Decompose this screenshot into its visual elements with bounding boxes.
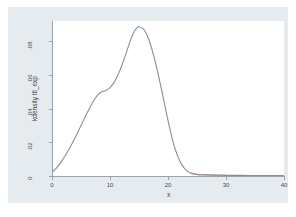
stata-graph-region: kdensity ttl_exp 0.02.04.06.08 010203040… [8,7,288,203]
y-tick-label: .08 [27,41,34,65]
x-tick-mark [110,177,111,180]
y-tick-mark [49,109,52,110]
x-tick-label: 30 [216,182,236,189]
y-tick-label: 0 [27,176,34,200]
plot-area [52,21,284,176]
x-tick-label: 0 [42,182,62,189]
y-tick-label: .02 [27,142,34,166]
y-tick-mark [49,75,52,76]
x-tick-mark [168,177,169,180]
x-tick-label: 20 [158,182,178,189]
y-axis-line [52,21,53,177]
y-tick-mark [49,142,52,143]
x-tick-label: 40 [274,182,294,189]
chart-screenshot: kdensity ttl_exp 0.02.04.06.08 010203040… [0,0,296,217]
y-tick-label: .06 [27,75,34,99]
x-tick-mark [52,177,53,180]
y-tick-label: .04 [27,109,34,133]
y-tick-mark [49,41,52,42]
density-curve-svg [52,21,284,176]
x-axis-title: x [52,191,285,199]
x-tick-mark [226,177,227,180]
x-tick-label: 10 [100,182,120,189]
kdensity-curve-path [52,27,284,176]
x-tick-mark [284,177,285,180]
